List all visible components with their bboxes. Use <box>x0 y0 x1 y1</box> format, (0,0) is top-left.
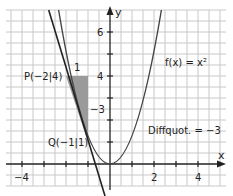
point-q-label: Q(−1|1) <box>48 137 88 149</box>
delta-y-label: −3 <box>90 104 105 115</box>
x-axis-label: x <box>218 149 225 162</box>
delta-x-label: 1 <box>74 62 80 73</box>
grid <box>6 10 226 186</box>
x-tick-label-4: 4 <box>195 172 201 183</box>
point-p-label: P(−2|4) <box>24 71 62 83</box>
diff-quotient-label: Diffquot. = −3 <box>148 125 221 136</box>
function-label: f(x) = x² <box>165 57 207 68</box>
x-tick-label-2: 2 <box>151 172 157 183</box>
coordinate-diagram: y x −4 2 4 6 4 P(−2|4) Q(−1|1) 1 −3 f(x)… <box>0 0 233 196</box>
y-tick-label-4: 4 <box>97 71 103 82</box>
y-tick-label-6: 6 <box>97 27 103 38</box>
x-tick-label-neg4: −4 <box>14 172 29 183</box>
y-axis-label: y <box>115 6 122 19</box>
